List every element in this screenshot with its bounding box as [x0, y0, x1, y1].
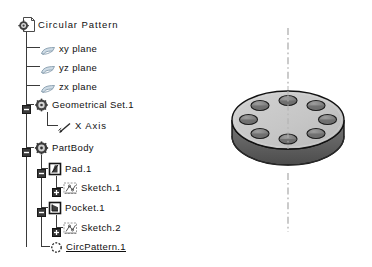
- sketch-icon: [63, 221, 78, 234]
- tree-item-geometrical-set[interactable]: Geometrical Set.1: [34, 96, 134, 113]
- tree-item-label: Pad.1: [62, 164, 92, 174]
- sketch-icon: [63, 181, 78, 194]
- tree-item-label: Sketch.1: [78, 183, 121, 193]
- tree-expander-plus-sketch-2[interactable]: [52, 223, 61, 232]
- tree-item-label: xy plane: [56, 44, 97, 54]
- pocket-instance: [251, 129, 269, 139]
- tree-item-label: CircPattern.1: [63, 242, 126, 252]
- tree-expander-minus-geometrical-set[interactable]: [22, 100, 31, 109]
- pad-icon: [48, 162, 62, 176]
- tree-item-zx-plane[interactable]: zx plane: [40, 78, 97, 95]
- plane-icon: [40, 81, 56, 93]
- disc-with-pocket-pattern: [200, 0, 372, 267]
- circular-pattern-icon: [50, 240, 63, 253]
- plane-icon: [40, 43, 56, 55]
- tree-item-circular-pattern[interactable]: Circular Pattern: [18, 16, 118, 33]
- pocket-icon: [48, 201, 62, 215]
- specification-tree: Circular Pattern xy plane yz plane: [0, 0, 200, 267]
- cad-viewport: Circular Pattern xy plane yz plane: [0, 0, 372, 267]
- tree-item-label: Geometrical Set.1: [49, 100, 134, 110]
- tree-item-x-axis[interactable]: X Axis: [58, 117, 107, 134]
- tree-item-xy-plane[interactable]: xy plane: [40, 40, 97, 57]
- geometrical-set-icon: [34, 98, 49, 112]
- tree-item-sketch-2[interactable]: Sketch.2: [63, 219, 121, 236]
- pocket-instance: [251, 101, 269, 111]
- tree-item-label: Circular Pattern: [35, 20, 118, 30]
- tree-item-label: X Axis: [72, 121, 107, 131]
- tree-item-pad[interactable]: Pad.1: [48, 160, 92, 177]
- part-body-icon: [34, 141, 49, 155]
- tree-item-label: zx plane: [56, 82, 97, 92]
- plane-icon: [40, 62, 56, 74]
- pocket-instance: [319, 115, 337, 125]
- tree-item-part-body[interactable]: PartBody: [34, 139, 94, 156]
- tree-item-pocket[interactable]: Pocket.1: [48, 199, 105, 216]
- pocket-instance: [307, 129, 325, 139]
- pocket-instance: [307, 101, 325, 111]
- tree-expander-minus-pocket[interactable]: [37, 203, 46, 212]
- tree-item-sketch-1[interactable]: Sketch.1: [63, 179, 121, 196]
- tree-item-yz-plane[interactable]: yz plane: [40, 59, 97, 76]
- tree-item-label: Sketch.2: [78, 223, 121, 233]
- tree-item-circ-pattern[interactable]: CircPattern.1: [50, 238, 126, 255]
- tree-expander-plus-sketch-1[interactable]: [52, 183, 61, 192]
- tree-expander-minus-pad[interactable]: [37, 164, 46, 173]
- 3d-model-viewport[interactable]: [200, 0, 372, 267]
- tree-item-label: Pocket.1: [62, 203, 105, 213]
- tree-item-label: yz plane: [56, 63, 97, 73]
- tree-expander-minus-part-body[interactable]: [22, 143, 31, 152]
- document-gear-icon: [18, 17, 35, 33]
- axis-icon: [58, 120, 72, 132]
- pocket-instance: [240, 115, 258, 125]
- tree-item-label: PartBody: [49, 143, 94, 153]
